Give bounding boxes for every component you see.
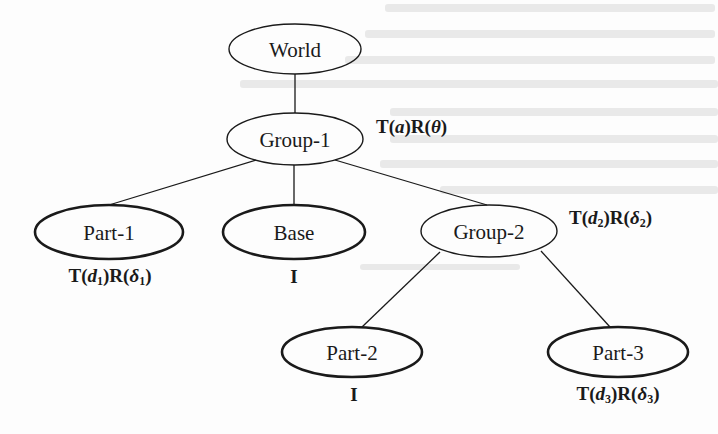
node-label-group-1: Group-1 [259,130,330,151]
transform-base: I [290,267,297,286]
edge-group2-to-part2 [362,252,440,327]
node-label-base: Base [274,223,315,244]
node-label-world: World [269,40,321,61]
transform-part-3: T(d3)R(δ3) [577,384,660,405]
node-label-part-2: Part-2 [326,343,377,364]
edge-group1-to-part1 [109,160,256,205]
transform-part-2: I [350,385,357,404]
edge-group1-to-group2 [335,160,487,205]
node-label-group-2: Group-2 [453,222,524,243]
transform-group-2: T(d2)R(δ2) [569,208,652,229]
transform-part-1: T(d1)R(δ1) [69,266,152,287]
node-label-part-3: Part-3 [592,343,643,364]
transform-group-1: T(a)R(θ) [376,117,447,136]
scene-graph-diagram: World Group-1 Part-1 Base Group-2 Part-2… [0,0,718,434]
edge-group2-to-part3 [541,251,610,327]
node-label-part-1: Part-1 [83,223,134,244]
